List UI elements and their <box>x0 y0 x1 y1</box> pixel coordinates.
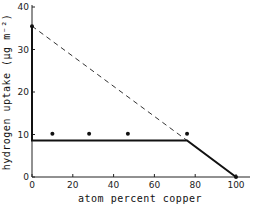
chart: 010203040 020406080100 atom percent copp… <box>0 0 253 208</box>
y-tick-label: 30 <box>18 45 30 55</box>
y-axis-label: hydrogen uptake (μg m⁻²) <box>1 14 12 171</box>
data-point <box>234 175 238 179</box>
x-tick-label: 100 <box>227 180 244 190</box>
dashed-line <box>32 26 187 140</box>
data-point <box>30 24 34 28</box>
y-tick-label: 40 <box>18 2 30 12</box>
data-point <box>87 132 91 136</box>
x-tick-label: 60 <box>149 180 161 190</box>
x-ticks: 020406080100 <box>29 174 245 190</box>
x-axis-label: atom percent copper <box>78 193 202 204</box>
data-point <box>50 132 54 136</box>
x-tick-label: 20 <box>67 180 79 190</box>
x-tick-label: 40 <box>108 180 120 190</box>
data-point <box>126 132 130 136</box>
data-point <box>185 132 189 136</box>
y-tick-label: 20 <box>18 87 30 97</box>
x-tick-label: 0 <box>29 180 35 190</box>
x-tick-label: 80 <box>189 180 201 190</box>
y-tick-label: 10 <box>18 130 30 140</box>
